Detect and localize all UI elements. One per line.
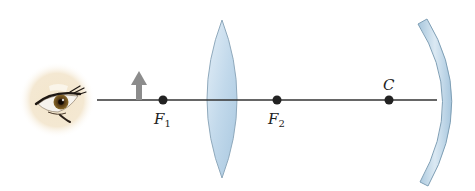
label-f1-sub: 1 — [164, 118, 170, 129]
focal-point-f1 — [159, 96, 168, 105]
label-f2-main: F — [268, 110, 278, 128]
label-f2: F2 — [268, 112, 285, 129]
concave-mirror — [418, 19, 452, 186]
label-f1: F1 — [154, 112, 171, 129]
object-arrow-icon — [131, 71, 147, 100]
converging-lens — [207, 20, 237, 178]
label-f2-sub: 2 — [278, 118, 284, 129]
label-c: C — [383, 78, 394, 93]
center-of-curvature-point — [385, 96, 394, 105]
label-c-main: C — [383, 76, 394, 94]
optics-diagram — [0, 0, 475, 191]
focal-point-f2 — [273, 96, 282, 105]
label-f1-main: F — [154, 110, 164, 128]
eye-icon — [19, 62, 95, 138]
